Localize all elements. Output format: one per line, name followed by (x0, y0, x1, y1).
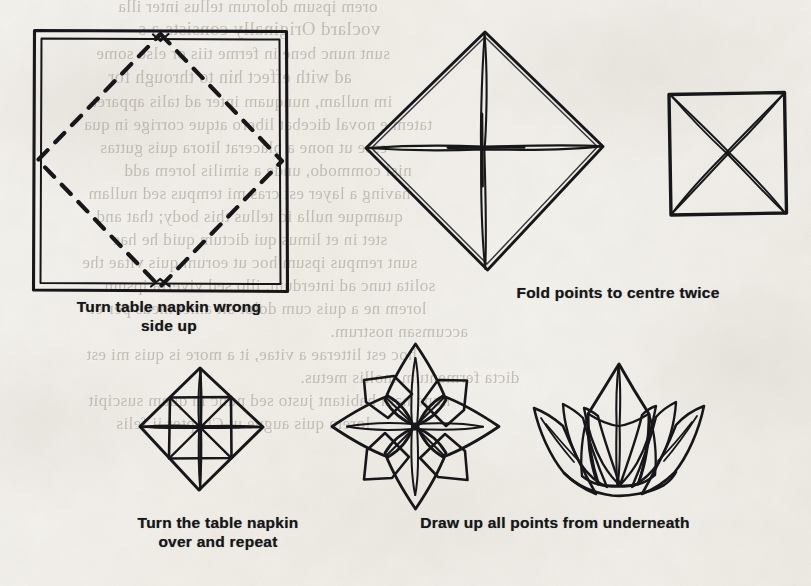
caption-fold-points-to-centre-twice: Fold points to centre twice (483, 283, 753, 302)
scanned-page: orem ipsum dolorum tellus inter illa voc… (0, 0, 811, 586)
caption-draw-up-all-points-from-underneath: Draw up all points from underneath (370, 513, 740, 532)
ghost-bleed-text-line: orem ipsum dolorum tellus inter illa (118, 0, 377, 19)
caption-turn-table-napkin-wrong-side-up: Turn table napkin wrong side up (44, 297, 294, 335)
figure-finished-water-lily (528, 352, 758, 512)
figure-square-napkin-with-dashed-diamond (20, 18, 310, 308)
caption-turn-the-table-napkin-over-and-repeat: Turn the table napkin over and repeat (104, 513, 332, 551)
figure-square-with-diagonal-creases (663, 88, 793, 222)
figure-diamond-with-pinwheel-creases (135, 362, 270, 497)
figure-diamond-with-cross-fold (352, 18, 622, 288)
figure-eight-point-star-flower (328, 340, 503, 512)
